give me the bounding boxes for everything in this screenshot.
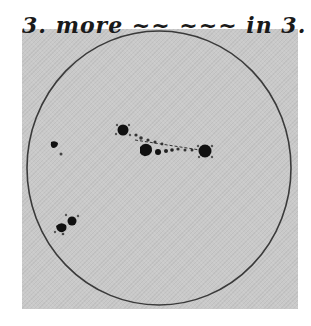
sunspot-group-main: [115, 124, 213, 158]
solar-disk-drawing: [0, 0, 311, 326]
solar-disk-outline: [27, 31, 291, 305]
sunspot-group-lower-left: [54, 214, 79, 236]
handwritten-caption: 3. more ~~ ~~~ in 3.: [22, 12, 311, 38]
sunspot-far-left: [51, 141, 63, 155]
